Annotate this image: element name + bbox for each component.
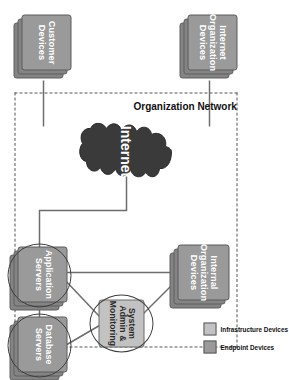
node-label-line1: System	[126, 307, 136, 338]
node-application-servers[interactable]: Application Servers	[11, 246, 67, 308]
node-label-line1: Database	[43, 324, 53, 364]
legend-label-endpoint: Endpoint Devices	[220, 343, 274, 350]
node-label-line2: Admin &	[117, 305, 127, 341]
node-label-line1: Customer	[46, 20, 56, 64]
node-label-line2: Devices	[36, 24, 46, 59]
node-label-line1: Internal	[208, 255, 218, 289]
legend-swatch-infrastructure	[203, 322, 216, 335]
node-face: System Admin & Monitoring	[98, 299, 144, 347]
link-internet-to-application-servers	[39, 176, 126, 248]
diagram-canvas: Organization Network Internet Organizati…	[0, 0, 251, 369]
node-label-line2: Servers	[33, 328, 43, 361]
node-internal-organization-devices[interactable]: Internal Organization Devices	[171, 244, 229, 306]
legend-swatch-endpoint	[203, 340, 216, 353]
node-customer-devices[interactable]: Customer Devices	[15, 14, 71, 76]
legend-label-infrastructure: Infrastructure Devices	[220, 325, 288, 332]
node-database-servers[interactable]: Database Servers	[11, 316, 67, 378]
node-face: Application Servers	[17, 246, 67, 302]
node-face: Internal Organization Devices	[177, 244, 229, 300]
legend-item-endpoint-devices: Endpoint Devices	[203, 340, 274, 353]
node-label-line2: Servers	[33, 258, 43, 291]
node-label-line2: Organization	[207, 13, 217, 70]
internet-cloud-label: Internet	[77, 122, 173, 180]
legend: Infrastructure Devices Endpoint Devices	[157, 300, 237, 364]
node-system-admin-monitoring[interactable]: System Admin & Monitoring	[97, 296, 147, 348]
link-system-admin-to-application-servers	[63, 278, 99, 316]
node-internet-cloud[interactable]: Internet	[77, 122, 173, 180]
node-label-line2: Organization	[198, 243, 208, 300]
link-system-admin-to-database-servers	[63, 325, 99, 346]
node-internet-organization-devices[interactable]: Internet Organization Devices	[181, 14, 237, 76]
node-face: Database Servers	[17, 316, 67, 372]
node-face: Internet Organization Devices	[187, 14, 237, 70]
node-label-line3: Monitoring	[107, 300, 117, 345]
node-label-line3: Devices	[197, 24, 207, 59]
organization-network-label: Organization Network	[133, 100, 236, 111]
diagram-stage: Organization Network Internet Organizati…	[0, 0, 251, 369]
node-label-line3: Devices	[188, 254, 198, 289]
node-face: Customer Devices	[21, 14, 71, 70]
node-label-line1: Application	[43, 250, 53, 299]
legend-item-infrastructure-devices: Infrastructure Devices	[203, 322, 288, 335]
node-label-line1: Internet	[217, 25, 227, 60]
